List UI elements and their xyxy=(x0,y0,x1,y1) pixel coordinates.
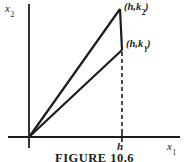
figure-10-6-diagram: x2 x1 h (h,k2) (h,k1) FIGURE 10.6 xyxy=(0,0,184,162)
point-h-k1-label: (h,k1) xyxy=(126,39,150,50)
segment-hk2-to-hk1 xyxy=(120,9,122,50)
segment-origin-to-hk2 xyxy=(30,9,121,137)
segment-origin-to-hk1 xyxy=(30,50,123,137)
diagram-canvas xyxy=(0,0,184,162)
figure-caption: FIGURE 10.6 xyxy=(55,151,134,162)
x2-axis-label: x2 xyxy=(5,3,14,14)
x1-axis-label: x1 xyxy=(167,141,176,152)
point-h-k2-label: (h,k2) xyxy=(124,2,148,13)
